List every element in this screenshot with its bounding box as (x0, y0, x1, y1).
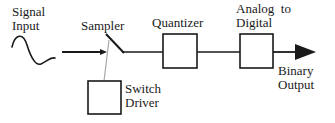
label-sampler: Sampler (81, 19, 124, 33)
label-quantizer: Quantizer (152, 16, 203, 30)
sine-wave-icon (12, 36, 55, 64)
block-analog-to-digital (240, 34, 273, 68)
block-switch-driver (88, 81, 121, 114)
input-arrowhead-icon (100, 49, 107, 55)
driver-control-line (104, 40, 109, 81)
label-signal-input: Signal Input (12, 5, 45, 33)
label-analog-to-digital: Analog to Digital (236, 2, 291, 30)
block-diagram: Signal Input Sampler Quantizer Analog to… (0, 0, 335, 123)
label-switch-driver: Switch Driver (125, 82, 161, 110)
block-quantizer (163, 34, 197, 68)
output-arrowhead-icon (295, 44, 316, 60)
label-binary-output: Binary Output (278, 64, 314, 92)
